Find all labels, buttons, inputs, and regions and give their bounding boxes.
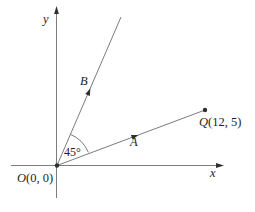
origin-point	[55, 163, 59, 167]
origin-label: O(0, 0)	[17, 171, 53, 185]
ray-b-label: B	[80, 74, 88, 88]
q-letter: Q	[199, 115, 208, 129]
x-axis-arrowhead-icon	[216, 163, 224, 168]
q-point	[203, 108, 207, 112]
angle-label: 45°	[64, 145, 81, 159]
diagram-canvas: y x O(0, 0) Q(12, 5) A B 45°	[0, 0, 255, 212]
ray-a-label: A	[129, 135, 138, 149]
x-axis-label: x	[209, 166, 216, 180]
origin-letter: O	[17, 171, 26, 185]
q-label: Q(12, 5)	[199, 115, 241, 129]
coordinate-diagram: y x O(0, 0) Q(12, 5) A B 45°	[0, 0, 255, 212]
y-axis-label: y	[41, 12, 49, 26]
origin-coords: (0, 0)	[26, 171, 53, 185]
q-coords: (12, 5)	[208, 115, 241, 129]
ray-ob-arrowhead-icon	[85, 88, 90, 96]
y-axis-arrowhead-icon	[54, 6, 59, 14]
